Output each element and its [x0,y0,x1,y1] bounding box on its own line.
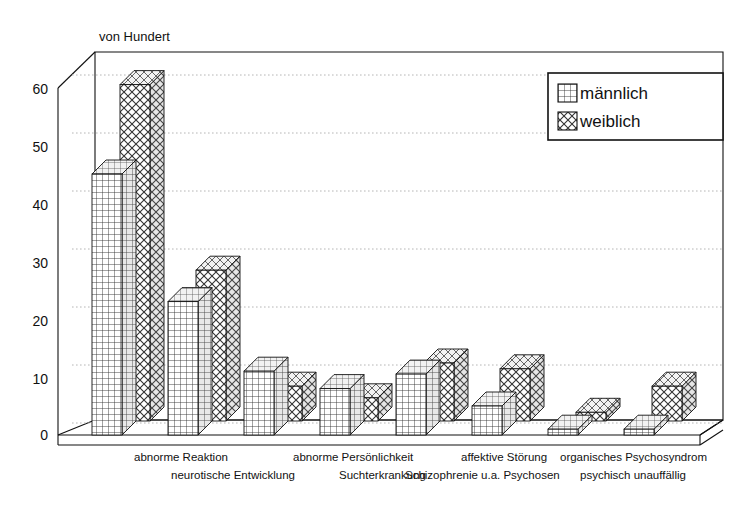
category-labels: abnorme Reaktion neurotische Entwicklung… [134,451,707,481]
cat-label-schizophrenie: Schizophrenie u.a. Psychosen [405,469,560,481]
cat-label-neurotische-entwicklung: neurotische Entwicklung [171,469,295,481]
y-tick-0: 0 [40,427,48,443]
bar-maennlich-6 [548,415,592,435]
bar-maennlich-5 [472,392,516,435]
cat-label-abnorme-reaktion: abnorme Reaktion [134,451,228,463]
cat-label-organisches-psychosyndrom: organisches Psychosyndrom [560,451,707,463]
bar-maennlich-4 [396,360,440,435]
bar-weiblich-7 [652,372,696,421]
chart-container: 0 10 20 30 40 50 60 von Hundert männlich… [0,0,742,508]
y-tick-20: 20 [32,313,48,329]
cat-label-affektive-stoerung: affektive Störung [461,451,547,463]
y-tick-30: 30 [32,255,48,271]
y-tick-60: 60 [32,81,48,97]
legend: männlich weiblich [548,73,723,140]
y-tick-40: 40 [32,197,48,213]
bar-maennlich-3 [320,375,364,435]
y-tick-50: 50 [32,139,48,155]
legend-swatch-maennlich [558,84,577,102]
bar-maennlich-7 [624,415,668,435]
bar-maennlich-1 [168,288,212,435]
y-axis-ticks: 0 10 20 30 40 50 60 [32,81,48,443]
bar-chart-3d: 0 10 20 30 40 50 60 von Hundert männlich… [0,0,742,508]
legend-label-maennlich: männlich [580,84,648,103]
axis-unit-label: von Hundert [99,29,170,44]
legend-swatch-weiblich [558,112,577,130]
bar-maennlich-0 [92,160,136,435]
y-tick-10: 10 [32,371,48,387]
bar-maennlich-2 [244,357,288,435]
cat-label-psychisch-unauffaellig: psychisch unauffällig [580,469,686,481]
cat-label-abnorme-persoenlichkeit: abnorme Persönlichkeit [293,451,414,463]
legend-label-weiblich: weiblich [579,112,640,131]
